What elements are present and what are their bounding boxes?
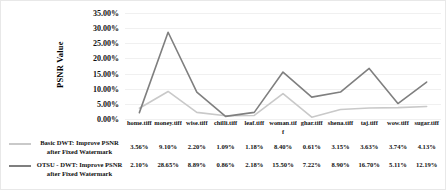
x-axis-category-label: sugar.tiff xyxy=(412,119,441,137)
data-cell-series-1: 0.61% xyxy=(297,141,326,152)
y-axis-tick-label: 20.00% xyxy=(69,54,119,63)
legend-item-otsu-dwt[interactable]: OTSU - DWT: Improve PSNR after Fixed Wat… xyxy=(9,161,125,178)
table-row-series-1: 3.56%9.10%2.20%1.09%1.18%8.40%0.61%3.15%… xyxy=(125,141,441,152)
y-axis-tick-label: 15.00% xyxy=(69,69,119,78)
table-row-series-2: 2.10%28.65%8.89%0.86%2.18%15.50%7.22%8.9… xyxy=(125,159,441,170)
data-table: home.tiffmoney.tiffwise.tiffchilli.tiffl… xyxy=(125,119,441,177)
legend-item-basic-dwt[interactable]: Basic DWT: Improve PSNR after Fixed Wate… xyxy=(9,139,125,156)
y-axis-tick-label: 35.00% xyxy=(69,9,119,18)
x-axis-category-label: ghar.tiff xyxy=(297,119,326,137)
x-axis-category-label: wise.tiff xyxy=(182,119,211,137)
data-cell-series-2: 8.90% xyxy=(326,159,355,170)
data-cell-series-1: 8.40% xyxy=(269,141,298,152)
x-axis-category-label: home.tiff xyxy=(125,119,154,137)
y-axis-tick-label: 25.00% xyxy=(69,39,119,48)
plot-lines xyxy=(125,13,441,119)
data-cell-series-1: 3.56% xyxy=(125,141,154,152)
data-cell-series-1: 3.63% xyxy=(355,141,384,152)
x-axis-category-label: taj.tiff xyxy=(355,119,384,137)
table-row-categories: home.tiffmoney.tiffwise.tiffchilli.tiffl… xyxy=(125,119,441,137)
data-cell-series-2: 16.70% xyxy=(355,159,384,170)
x-axis-category-label: leaf.tiff xyxy=(240,119,269,137)
x-axis-category-label: woman.tiff xyxy=(269,119,298,137)
plot-area xyxy=(125,13,441,119)
data-cell-series-1: 9.10% xyxy=(154,141,183,152)
data-cell-series-1: 3.74% xyxy=(384,141,413,152)
x-axis-category-label: money.tiff xyxy=(154,119,183,137)
data-cell-series-2: 2.10% xyxy=(125,159,154,170)
chart-legend: Basic DWT: Improve PSNR after Fixed Wate… xyxy=(9,139,125,185)
y-axis-tick-label: 0.00% xyxy=(69,115,119,124)
x-axis-category-label: shena.tiff xyxy=(326,119,355,137)
data-cell-series-2: 5.11% xyxy=(384,159,413,170)
y-axis-tick-labels: 35.00%30.00%25.00%20.00%15.00%10.00%5.00… xyxy=(69,13,119,119)
data-cell-series-1: 1.09% xyxy=(211,141,240,152)
y-axis-tick-label: 5.00% xyxy=(69,99,119,108)
y-axis-title: PSNR Value xyxy=(53,19,67,111)
data-cell-series-1: 1.18% xyxy=(240,141,269,152)
legend-item-label: Basic DWT: Improve PSNR after Fixed Wate… xyxy=(34,139,125,156)
y-axis-tick-label: 30.00% xyxy=(69,24,119,33)
series-line-1 xyxy=(139,91,426,117)
chart-figure: PSNR Value 35.00%30.00%25.00%20.00%15.00… xyxy=(0,0,446,190)
y-axis-tick-label: 10.00% xyxy=(69,84,119,93)
data-cell-series-2: 7.22% xyxy=(297,159,326,170)
data-cell-series-2: 0.86% xyxy=(211,159,240,170)
x-axis-category-label: wow.tiff xyxy=(384,119,413,137)
legend-item-label: OTSU - DWT: Improve PSNR after Fixed Wat… xyxy=(34,161,125,178)
data-cell-series-2: 8.89% xyxy=(182,159,211,170)
series-line-2 xyxy=(139,32,426,116)
data-cell-series-2: 28.65% xyxy=(154,159,183,170)
x-axis-category-label: chilli.tiff xyxy=(211,119,240,137)
legend-line-swatch-icon xyxy=(9,143,31,145)
data-cell-series-1: 2.20% xyxy=(182,141,211,152)
data-cell-series-2: 2.18% xyxy=(240,159,269,170)
data-cell-series-1: 3.15% xyxy=(326,141,355,152)
legend-line-swatch-icon xyxy=(9,165,31,167)
data-cell-series-1: 4.13% xyxy=(412,141,441,152)
data-cell-series-2: 12.19% xyxy=(412,159,441,170)
data-cell-series-2: 15.50% xyxy=(269,159,298,170)
